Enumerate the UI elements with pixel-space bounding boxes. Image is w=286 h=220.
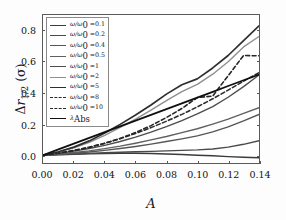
y-tick-label: 0.0: [8, 151, 36, 162]
x-tick-label: 0.04: [94, 169, 115, 180]
y-tick-mark-right: [257, 61, 260, 62]
x-tick-mark: [167, 161, 168, 164]
legend-line-swatch: [50, 45, 66, 46]
legend-item: ω/ω0 =1: [49, 62, 105, 72]
legend-label: ω/ω0 =5: [70, 82, 99, 92]
legend-label: ω/ω0 =10: [70, 103, 103, 113]
y-tick-label: 0.4: [8, 87, 36, 98]
legend-item: ω/ω0 =0.5: [49, 51, 105, 61]
y-tick-mark-right: [257, 30, 260, 31]
legend-item: ω/ω0 =0.1: [49, 20, 105, 30]
legend-line-swatch: [50, 87, 66, 88]
y-axis-title-delta: Δ: [13, 105, 28, 114]
x-tick-label: 0.02: [63, 169, 84, 180]
y-tick-mark-right: [257, 93, 260, 94]
legend-item: ω/ω0 =5: [49, 82, 105, 92]
legend-label: ω/ω0 =2: [70, 72, 99, 82]
x-tick-label: 0.14: [249, 169, 270, 180]
legend-line-swatch: [50, 108, 66, 109]
x-axis-title: A: [146, 196, 155, 211]
legend-line-swatch: [50, 118, 66, 119]
y-tick-mark: [42, 93, 45, 94]
legend-label: λAbs: [70, 114, 90, 124]
x-tick-mark: [104, 161, 105, 164]
x-tick-mark: [135, 161, 136, 164]
legend-item: ω/ω0 =0.2: [49, 30, 105, 40]
x-tick-mark: [42, 161, 43, 164]
legend-label: ω/ω0 =0.2: [70, 30, 105, 40]
legend-item: ω/ω0 =8: [49, 93, 105, 103]
x-tick-mark: [260, 161, 261, 164]
legend-label: ω/ω0 =8: [70, 93, 99, 103]
y-tick-mark: [42, 125, 45, 126]
legend-item: λAbs: [49, 114, 105, 124]
y-axis-title-r: r: [13, 99, 28, 105]
legend-label: ω/ω0 =0.4: [70, 41, 105, 51]
y-tick-mark-right: [257, 125, 260, 126]
y-tick-label: 0.6: [8, 56, 36, 67]
y-tick-mark-right: [257, 156, 260, 157]
y-tick-label: 0.2: [8, 119, 36, 130]
legend-line-swatch: [50, 66, 66, 67]
legend-item: ω/ω0 =0.4: [49, 41, 105, 51]
legend-line-swatch: [50, 77, 66, 78]
legend-label: ω/ω0 =1: [70, 62, 99, 72]
legend-label: ω/ω0 =0.5: [70, 51, 105, 61]
x-tick-label: 0.00: [31, 169, 52, 180]
legend-line-swatch: [50, 97, 66, 98]
x-tick-label: 0.10: [187, 169, 208, 180]
legend-item: ω/ω0 =2: [49, 72, 105, 82]
legend-line-swatch: [50, 35, 66, 36]
x-tick-label: 0.08: [156, 169, 177, 180]
legend-line-swatch: [50, 56, 66, 57]
y-tick-mark: [42, 156, 45, 157]
figure-container: Δr1/2 (σ) A 0.000.020.040.060.080.100.12…: [0, 0, 286, 220]
y-tick-mark: [42, 30, 45, 31]
legend-line-swatch: [50, 25, 66, 26]
x-tick-mark: [229, 161, 230, 164]
x-tick-label: 0.12: [218, 169, 239, 180]
y-tick-mark: [42, 61, 45, 62]
x-tick-mark: [198, 161, 199, 164]
legend-label: ω/ω0 =0.1: [70, 20, 105, 30]
legend: ω/ω0 =0.1ω/ω0 =0.2ω/ω0 =0.4ω/ω0 =0.5ω/ω0…: [46, 17, 109, 127]
legend-item: ω/ω0 =10: [49, 103, 105, 113]
y-tick-label: 0.8: [8, 24, 36, 35]
x-tick-mark: [73, 161, 74, 164]
x-tick-label: 0.06: [125, 169, 146, 180]
